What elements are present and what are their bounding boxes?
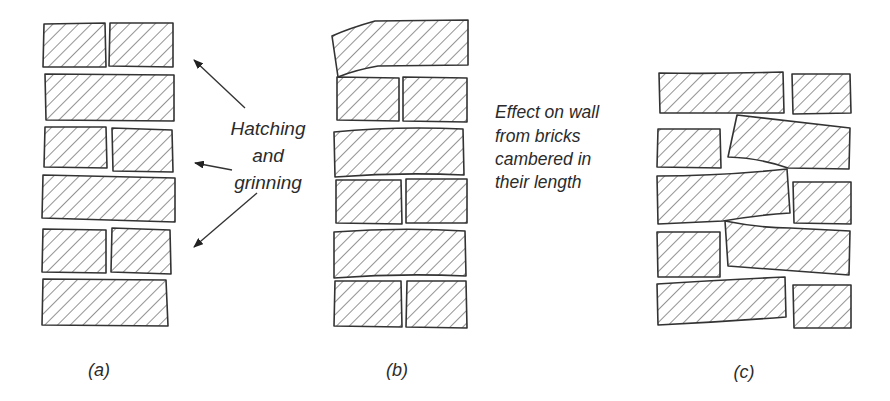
brick [793, 182, 851, 224]
panel-b-wall [332, 20, 468, 328]
hatching-annotation: Hatching and grinning [231, 118, 306, 193]
brick [793, 285, 851, 328]
panel-a-wall [42, 23, 175, 326]
tilted-brick [725, 221, 850, 275]
brick [44, 127, 107, 168]
cambered-brick [334, 128, 464, 177]
brick [403, 77, 467, 122]
camber-annotation: Effect on wall from bricks cambered in t… [495, 102, 600, 192]
brick [337, 77, 399, 121]
diagram-canvas: Hatching and grinning Effect on wall fro… [0, 0, 890, 401]
cambered-brick [332, 20, 468, 77]
arrow-up-left-icon [194, 60, 245, 108]
arrow-left-icon [195, 163, 232, 170]
brick [42, 229, 106, 273]
brick [43, 23, 106, 67]
brick [406, 281, 467, 328]
brick [659, 72, 784, 113]
camber-line-4: their length [495, 172, 582, 192]
brick [657, 277, 786, 325]
brickwork-diagram: Hatching and grinning Effect on wall fro… [0, 0, 890, 401]
brick [109, 23, 173, 67]
brick [406, 179, 467, 223]
camber-line-1: Effect on wall [495, 102, 600, 122]
annotation-line-2: and [252, 145, 285, 166]
caption-b: (b) [386, 360, 408, 380]
camber-line-3: cambered in [495, 149, 591, 169]
annotation-arrows [194, 60, 257, 247]
arrow-down-left-icon [194, 193, 257, 247]
camber-line-2: from bricks [495, 126, 581, 146]
brick [792, 74, 851, 114]
tilted-brick [728, 115, 850, 169]
brick [42, 279, 168, 326]
annotation-line-3: grinning [234, 172, 302, 193]
brick [336, 180, 402, 224]
caption-c: (c) [734, 362, 755, 382]
brick [111, 228, 171, 274]
brick [112, 128, 173, 172]
annotation-line-1: Hatching [231, 118, 306, 139]
cambered-brick [334, 229, 466, 278]
brick [657, 129, 721, 168]
brick [42, 175, 175, 222]
tilted-brick [657, 169, 790, 224]
brick [657, 232, 720, 277]
brick [334, 281, 402, 327]
caption-a: (a) [88, 360, 110, 380]
brick [45, 74, 174, 121]
panel-c-wall [657, 72, 851, 328]
